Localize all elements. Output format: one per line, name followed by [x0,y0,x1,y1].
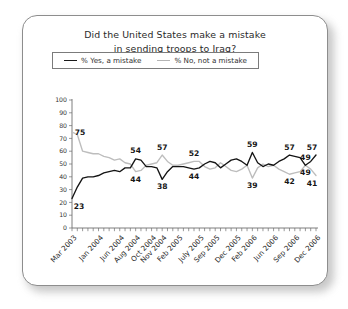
legend-label-no: % No, not a mistake [174,56,247,65]
legend-line-swatch-yes-icon [64,60,77,61]
chart-legend: % Yes, a mistake % No, not a mistake [52,52,259,69]
legend-line-swatch-no-icon [157,60,170,61]
legend-item-yes: % Yes, a mistake [64,56,141,65]
legend-label-yes: % Yes, a mistake [81,56,141,65]
legend-item-no: % No, not a mistake [157,56,247,65]
chart-title: Did the United States make a mistake in … [23,28,327,55]
chart-title-line-1: Did the United States make a mistake [23,28,327,42]
chart-card-container: Did the United States make a mistake in … [0,0,348,309]
